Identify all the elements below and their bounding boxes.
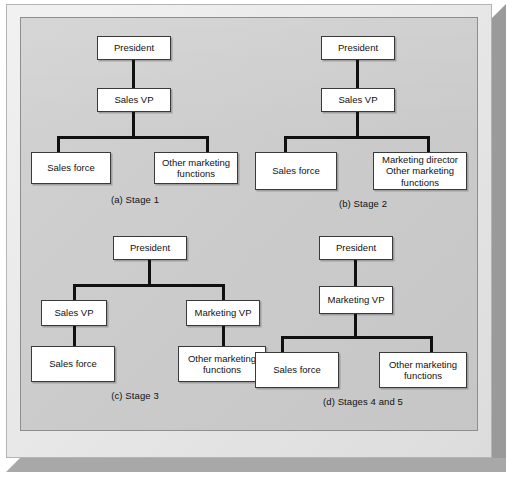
caption-stage-2: (b) Stage 2: [249, 198, 477, 209]
node-sales-vp[interactable]: Sales VP: [321, 88, 395, 112]
panel-stage-3: President Sales VP Marketing VP Sales fo…: [21, 224, 249, 430]
node-president[interactable]: President: [319, 236, 393, 260]
connector-president-to-salesvp: [132, 60, 135, 88]
node-sales-vp[interactable]: Sales VP: [41, 300, 107, 326]
connector-president-down: [148, 260, 151, 286]
caption-stage-3: (c) Stage 3: [21, 390, 249, 401]
node-label-line-1: Other marketing: [188, 353, 256, 365]
connector-marketingvp-to-other: [222, 326, 225, 348]
node-president[interactable]: President: [321, 36, 395, 60]
quadrant-grid: President Sales VP Sales force Other mar…: [21, 18, 477, 430]
panel-stage-4-5: President Marketing VP Sales force Other…: [249, 224, 477, 430]
figure-frame: President Sales VP Sales force Other mar…: [6, 4, 506, 472]
panel-stage-2: President Sales VP Sales force Marketing…: [249, 18, 477, 224]
node-label: Sales force: [47, 162, 95, 174]
node-label: Marketing VP: [194, 307, 251, 319]
caption-stage-1: (a) Stage 1: [21, 194, 249, 205]
node-label: Sales VP: [54, 307, 93, 319]
node-label: Sales VP: [114, 94, 153, 106]
node-label-line-1: Other marketing: [389, 359, 457, 371]
frame-bevel-right: [492, 4, 506, 472]
node-label-line-2: functions: [162, 168, 230, 180]
node-label: President: [336, 242, 376, 254]
connector-salesvp-to-salesforce: [73, 326, 76, 348]
connector-bus-stage45: [281, 336, 433, 339]
connector-president-to-salesvp: [356, 60, 359, 88]
node-president[interactable]: President: [97, 36, 171, 60]
node-label-multiline: Other marketing functions: [188, 353, 256, 376]
node-president[interactable]: President: [113, 236, 187, 260]
node-label: President: [114, 42, 154, 54]
panel-stage-1: President Sales VP Sales force Other mar…: [21, 18, 249, 224]
node-label: Sales force: [272, 165, 320, 177]
frame-bevel-bottom: [6, 458, 506, 472]
node-sales-force[interactable]: Sales force: [255, 352, 339, 388]
connector-salesvp-down: [132, 112, 135, 138]
chart-panel: President Sales VP Sales force Other mar…: [20, 17, 478, 431]
node-label: President: [338, 42, 378, 54]
node-label-line-2: functions: [188, 364, 256, 376]
node-label-line-2: functions: [389, 370, 457, 382]
connector-salesvp-down: [356, 112, 359, 138]
node-label-multiline: Other marketing functions: [162, 157, 230, 180]
node-other-marketing[interactable]: Other marketing functions: [379, 352, 467, 388]
node-label-line-1: Marketing director: [382, 154, 458, 166]
node-sales-vp[interactable]: Sales VP: [97, 88, 171, 112]
node-label: President: [130, 242, 170, 254]
node-label: Sales VP: [338, 94, 377, 106]
node-sales-force[interactable]: Sales force: [31, 152, 111, 184]
node-label: Sales force: [273, 364, 321, 376]
node-label-multiline: Other marketing functions: [389, 359, 457, 382]
node-label: Sales force: [49, 358, 97, 370]
node-sales-force[interactable]: Sales force: [255, 152, 337, 190]
node-label-line-3: functions: [382, 177, 458, 189]
connector-marketingvp-down: [354, 314, 357, 338]
node-other-marketing[interactable]: Other marketing functions: [154, 152, 238, 184]
node-label-line-1: Other marketing: [162, 157, 230, 169]
connector-bus-stage3: [73, 284, 225, 287]
node-label: Marketing VP: [327, 294, 384, 306]
node-label-line-2: Other marketing: [382, 165, 458, 177]
caption-stage-4-5: (d) Stages 4 and 5: [249, 396, 477, 407]
connector-bus-stage1: [57, 136, 209, 139]
node-sales-force[interactable]: Sales force: [31, 346, 115, 382]
connector-bus-stage2: [284, 136, 430, 139]
node-marketing-director[interactable]: Marketing director Other marketing funct…: [373, 152, 467, 190]
node-marketing-vp[interactable]: Marketing VP: [319, 286, 393, 314]
node-label-multiline: Marketing director Other marketing funct…: [382, 154, 458, 189]
connector-president-to-marketingvp: [354, 260, 357, 286]
